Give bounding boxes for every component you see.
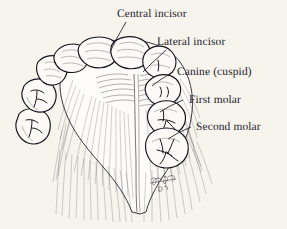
dental-arch-illustration: [0, 0, 287, 229]
label-lateral-incisor: Lateral incisor: [157, 37, 225, 48]
dental-arch-figure: Central incisor Lateral incisor Canine (…: [0, 0, 287, 229]
label-second-molar: Second molar: [196, 122, 261, 133]
label-central-incisor: Central incisor: [117, 9, 187, 20]
tooth-second-molar-right: [146, 128, 189, 168]
label-first-molar: First molar: [189, 95, 241, 106]
label-canine-cuspid: Canine (cuspid): [177, 67, 252, 78]
tooth-second-molar-left: [16, 109, 50, 144]
